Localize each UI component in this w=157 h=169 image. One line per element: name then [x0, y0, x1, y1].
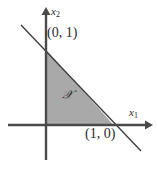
constraint-line — [21, 25, 141, 151]
x-axis-arrowhead-icon — [145, 121, 153, 130]
y-axis-label: x2 — [51, 6, 60, 19]
y-axis-label-subscript: 2 — [56, 10, 60, 19]
vertex-label-right: (1, 0) — [85, 127, 115, 141]
simplex-figure: x2 x1 (0, 1) (1, 0) 𝒳 — [0, 0, 157, 169]
vertex-label-top: (0, 1) — [47, 26, 77, 40]
x-axis-label: x1 — [129, 107, 138, 120]
x-axis-label-subscript: 1 — [134, 111, 138, 120]
region-symbol-label: 𝒳 — [62, 88, 73, 101]
y-axis-arrowhead-icon — [42, 7, 51, 15]
figure-canvas — [0, 0, 157, 169]
